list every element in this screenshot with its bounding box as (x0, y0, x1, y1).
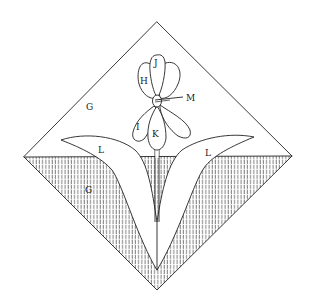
flower (133, 55, 191, 150)
label-k: K (152, 129, 159, 139)
label-leaf-right: L (205, 148, 211, 158)
label-m: M (186, 93, 195, 103)
label-air-g: G (86, 102, 93, 112)
label-h: H (140, 76, 148, 86)
label-leaf-left: L (98, 145, 104, 155)
plant-diagram: G G H J I K M L L (0, 0, 312, 297)
label-ground-g: G (85, 185, 92, 195)
label-i: I (136, 122, 140, 132)
label-j: J (153, 58, 158, 68)
